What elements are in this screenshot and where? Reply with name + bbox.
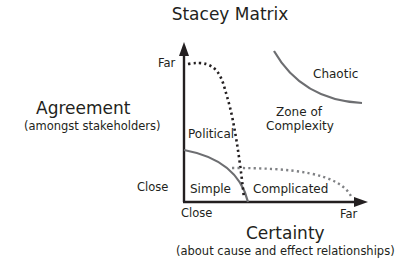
diagram-title: Stacey Matrix xyxy=(0,6,412,23)
region-political: Political xyxy=(188,128,234,140)
x-tick-far: Far xyxy=(340,209,357,221)
y-axis-arrow-icon xyxy=(179,42,189,56)
region-simple: Simple xyxy=(190,183,231,195)
y-axis-title: Agreement xyxy=(36,100,130,117)
region-complexity-line1: Zone of xyxy=(264,106,334,118)
region-complicated: Complicated xyxy=(253,183,328,195)
x-tick-close: Close xyxy=(181,208,212,220)
y-tick-far: Far xyxy=(158,58,175,70)
x-axis-arrow-icon xyxy=(354,197,368,207)
x-axis-subtitle: (about cause and effect relationships) xyxy=(176,246,395,258)
region-complexity-line2: Complexity xyxy=(260,120,340,132)
y-axis-subtitle: (amongst stakeholders) xyxy=(24,121,161,133)
region-chaotic: Chaotic xyxy=(313,68,358,80)
y-tick-close: Close xyxy=(137,182,168,194)
x-axis-title: Certainty xyxy=(246,225,325,242)
